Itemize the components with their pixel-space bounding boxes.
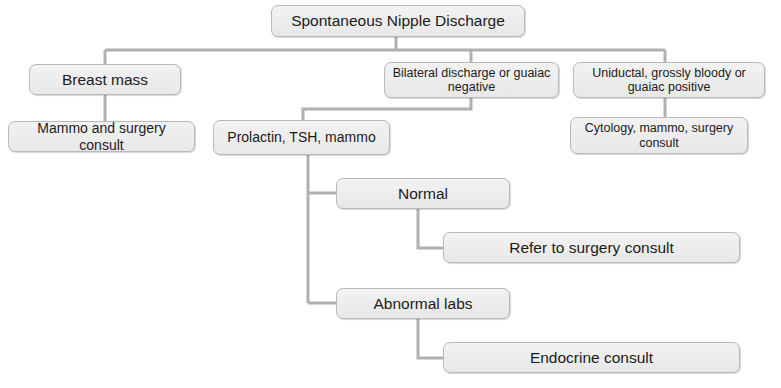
flowchart-canvas: Spontaneous Nipple DischargeBreast massB… — [0, 0, 781, 388]
node-mammo-surgery-consult[interactable]: Mammo and surgery consult — [8, 121, 195, 152]
node-endocrine-consult[interactable]: Endocrine consult — [443, 342, 740, 373]
node-label-normal: Normal — [343, 185, 503, 203]
node-label-abnormal-labs: Abnormal labs — [343, 295, 503, 313]
node-cytology-mammo-surgery[interactable]: Cytology, mammo, surgery consult — [570, 117, 748, 154]
node-label-cytology-mammo-surgery: Cytology, mammo, surgery consult — [577, 121, 741, 150]
node-breast-mass[interactable]: Breast mass — [29, 64, 181, 95]
node-root[interactable]: Spontaneous Nipple Discharge — [271, 5, 525, 37]
node-bilateral-discharge[interactable]: Bilateral discharge or guaiac negative — [384, 62, 559, 98]
node-normal[interactable]: Normal — [336, 178, 510, 209]
node-label-uniductal-bloody: Uniductal, grossly bloody or guaiac posi… — [580, 66, 758, 95]
node-uniductal-bloody[interactable]: Uniductal, grossly bloody or guaiac posi… — [573, 62, 765, 98]
node-label-bilateral-discharge: Bilateral discharge or guaiac negative — [391, 66, 552, 95]
node-label-breast-mass: Breast mass — [36, 71, 174, 89]
node-abnormal-labs[interactable]: Abnormal labs — [336, 288, 510, 319]
node-label-prolactin-tsh-mammo: Prolactin, TSH, mammo — [220, 129, 383, 145]
node-label-endocrine-consult: Endocrine consult — [450, 349, 733, 367]
node-label-root: Spontaneous Nipple Discharge — [278, 12, 518, 30]
connector-bilateral-to-prolactin — [303, 98, 471, 120]
connector-abnormal-labs-to-endocrine — [418, 319, 443, 358]
node-prolactin-tsh-mammo[interactable]: Prolactin, TSH, mammo — [213, 120, 390, 155]
node-label-mammo-surgery-consult: Mammo and surgery consult — [15, 120, 188, 152]
connector-normal-to-refer-surgery — [418, 209, 443, 248]
node-refer-surgery-consult[interactable]: Refer to surgery consult — [443, 232, 740, 263]
node-label-refer-surgery-consult: Refer to surgery consult — [450, 239, 733, 257]
